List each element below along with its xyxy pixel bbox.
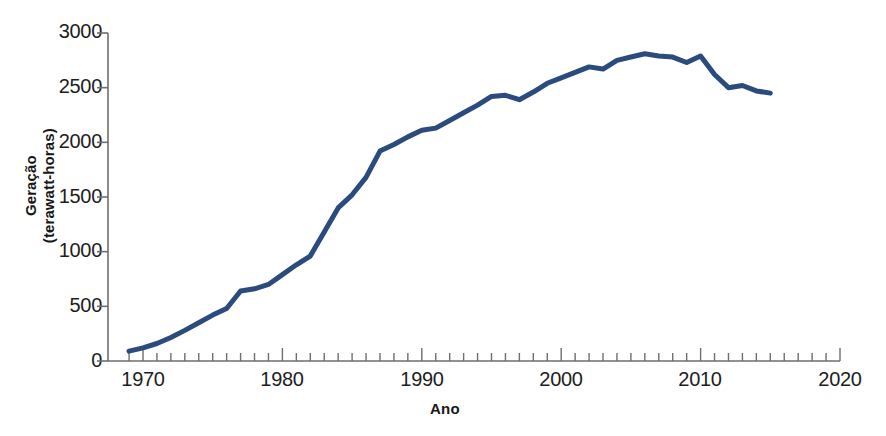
chart-container: Geração (terawatt-horas) 3000 2500 2000 … xyxy=(0,0,886,436)
y-axis-ticks xyxy=(97,33,108,361)
x-axis-ticks xyxy=(129,348,840,361)
plot-area xyxy=(0,0,886,436)
data-series-line xyxy=(129,54,770,351)
